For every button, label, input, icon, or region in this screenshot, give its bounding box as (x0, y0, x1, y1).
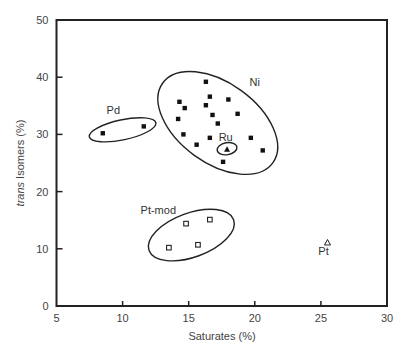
group-label-ru: Ru (219, 131, 233, 143)
group-label-pt-mod: Pt-mod (141, 204, 176, 216)
data-point-ru (224, 146, 230, 152)
data-point-pt-mod (184, 221, 189, 226)
data-points (101, 80, 331, 250)
data-point-pt-mod (167, 245, 172, 250)
x-tick-label: 20 (249, 312, 261, 324)
y-axis-title-italic: trans (14, 181, 26, 206)
x-tick-label: 5 (53, 312, 59, 324)
group-label-pd: Pd (107, 104, 120, 116)
data-point-ni (249, 136, 253, 140)
y-tick-label: 10 (36, 243, 48, 255)
data-point-ni (204, 80, 208, 84)
y-tick-label: 40 (36, 71, 48, 83)
data-point-ni (208, 94, 212, 98)
y-axis-title-rest: Isomers (%) (14, 120, 26, 182)
data-point-ni (183, 106, 187, 110)
data-point-ni (194, 142, 198, 146)
group-labels: NiRuPdPt-modPt (107, 76, 329, 257)
data-point-ni (221, 160, 225, 164)
data-point-pt-mod (196, 242, 201, 247)
group-enclosures (87, 51, 296, 272)
y-tick-label: 20 (36, 186, 48, 198)
data-point-ni (261, 148, 265, 152)
enclosure-pd (87, 113, 158, 147)
group-label-pt: Pt (318, 245, 328, 257)
x-tick-label: 25 (315, 312, 327, 324)
y-axis-title: trans Isomers (%) (14, 120, 26, 207)
scatter-chart: 51015202530 01020304050 NiRuPdPt-modPt S… (0, 0, 407, 359)
x-tick-label: 15 (183, 312, 195, 324)
data-point-ni (235, 112, 239, 116)
x-axis-title: Saturates (%) (188, 330, 255, 342)
data-point-ni (208, 136, 212, 140)
data-point-ni (204, 103, 208, 107)
data-point-ni (216, 121, 220, 125)
y-tick-label: 50 (36, 14, 48, 26)
data-point-pd (142, 124, 146, 128)
y-tick-label: 30 (36, 128, 48, 140)
data-point-ni (181, 132, 185, 136)
data-point-ni (176, 117, 180, 121)
data-point-ni (177, 100, 181, 104)
x-tick-label: 10 (116, 312, 128, 324)
group-label-ni: Ni (250, 76, 260, 88)
data-point-pt-mod (208, 217, 213, 222)
x-axis-ticks: 51015202530 (53, 301, 393, 324)
data-point-ni (226, 97, 230, 101)
x-tick-label: 30 (381, 312, 393, 324)
data-point-ni (210, 113, 214, 117)
data-point-pd (101, 131, 105, 135)
y-axis-ticks: 01020304050 (36, 14, 62, 312)
y-tick-label: 0 (42, 300, 48, 312)
